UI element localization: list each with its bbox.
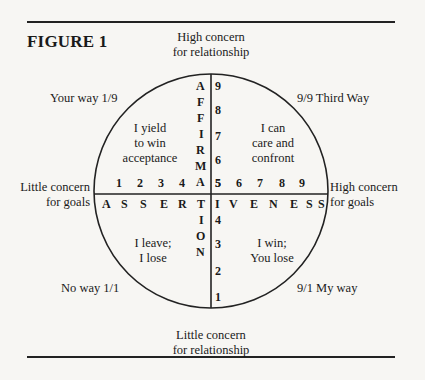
corner-bottom-left: No way 1/1 [61,281,119,296]
letter: R [178,197,187,212]
letter: I [199,213,204,228]
letter: E [250,197,258,212]
corner-top-left: Your way 1/9 [50,91,118,106]
top-axis-label-line1: High concern [161,30,261,45]
letter: A [196,79,205,94]
scale-tick: 9 [215,79,221,94]
letter: A [102,197,111,212]
letter: S [140,197,147,212]
letter: F [197,95,204,110]
quadrant-text: I yield [110,121,190,136]
scale-tick: 1 [215,290,221,305]
scale-tick: 7 [257,176,263,191]
scale-tick: 6 [236,176,242,191]
letter: S [306,197,313,212]
bottom-axis-label: Little concern for relationship [161,328,261,358]
right-axis-label-line1: High concern [330,180,410,195]
letter: M [195,159,206,174]
quadrant-top-left: I yield to win acceptance [110,121,190,166]
letter: F [197,111,204,126]
letter: V [229,197,238,212]
quadrant-bottom-right: I win; You lose [232,236,312,266]
scale-tick: 8 [279,176,285,191]
quadrant-top-right: I can care and confront [233,121,313,166]
bottom-axis-label-line1: Little concern [161,328,261,343]
top-axis-label-line2: for relationship [161,45,261,60]
letter: S [121,197,128,212]
letter: S [318,197,325,212]
letter: N [269,197,278,212]
corner-top-right: 9/9 Third Way [297,91,369,106]
letter: O [196,229,205,244]
scale-tick: 2 [215,264,221,279]
quadrant-text: acceptance [110,151,190,166]
letter: I [215,197,220,212]
letter: R [196,143,205,158]
scale-tick: 5 [215,176,221,191]
left-axis-label-line1: Little concern [18,180,90,195]
quadrant-text: care and [233,136,313,151]
scale-tick: 4 [215,213,221,228]
left-axis-label-line2: for goals [18,195,90,210]
quadrant-bottom-left: I leave; I lose [113,236,193,266]
scale-tick: 6 [215,153,221,168]
letter: E [290,197,298,212]
letter: E [160,197,168,212]
scale-tick: 1 [116,176,122,191]
scale-tick: 3 [158,176,164,191]
scale-tick: 9 [299,176,305,191]
quadrant-text: I leave; [113,236,193,251]
left-axis-label: Little concern for goals [18,180,90,210]
quadrant-text: You lose [232,251,312,266]
quadrant-text: to win [110,136,190,151]
letter: I [199,127,204,142]
quadrant-text: I can [233,121,313,136]
letter: N [196,245,205,260]
quadrant-text: confront [233,151,313,166]
scale-tick: 2 [137,176,143,191]
top-axis-label: High concern for relationship [161,30,261,60]
letter: T [197,197,205,212]
corner-bottom-right: 9/1 My way [297,281,357,296]
quadrant-text: I lose [113,251,193,266]
scale-tick: 3 [215,237,221,252]
scale-tick: 4 [179,176,185,191]
right-axis-label-line2: for goals [330,195,410,210]
scale-tick: 8 [215,103,221,118]
bottom-axis-label-line2: for relationship [161,343,261,358]
letter: A [196,175,205,190]
right-axis-label: High concern for goals [330,180,410,210]
quadrant-text: I win; [232,236,312,251]
scale-tick: 7 [215,129,221,144]
